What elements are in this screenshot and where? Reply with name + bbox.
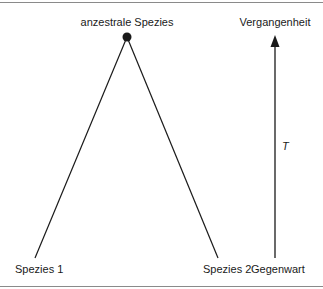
time-axis-arrowhead-icon <box>271 35 280 47</box>
branch-to-species-1 <box>35 37 127 258</box>
time-axis-label: T <box>282 140 289 153</box>
species-2-label: Spezies 2 <box>203 263 251 276</box>
past-label: Vergangenheit <box>240 16 311 29</box>
diagram-canvas: anzestrale Spezies Vergangenheit T Spezi… <box>0 0 323 289</box>
tree-graphic <box>0 0 323 289</box>
species-1-label: Spezies 1 <box>15 263 63 276</box>
branch-to-species-2 <box>127 37 218 258</box>
ancestor-label: anzestrale Spezies <box>81 16 174 29</box>
present-label: Gegenwart <box>251 263 305 276</box>
ancestor-node-dot <box>123 33 132 42</box>
